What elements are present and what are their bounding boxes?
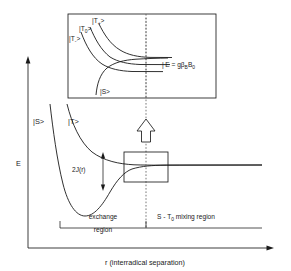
exchange-arrow-head-down [101,184,105,191]
triplet-curve-label: |T> [68,117,79,126]
svg-text:S - T0 mixing region: S - T0 mixing region [157,213,215,222]
potential-curves-group [50,104,262,216]
singlet-curve-label: |S> [33,117,44,126]
inset-label-singlet: |S> [100,88,110,96]
singlet-potential-curve [50,104,262,216]
triplet-potential-curve [67,104,262,165]
inset-zeeman-equation: |E = gβBB0 [162,61,195,70]
inset-t-minus-curve [81,32,163,72]
mixing-region-prefix: S - T [157,213,171,220]
inset-label-t-minus: |T-> [69,35,80,44]
figure-container: E r (interradical separation) |S> |T> 2J… [0,0,291,271]
y-axis-label: E [16,159,21,168]
y-axis-arrowhead [26,56,31,64]
inset-t-plus-curve [99,24,172,58]
x-axis-arrowhead [267,246,275,251]
energy-level-diagram: E r (interradical separation) |S> |T> 2J… [0,0,291,271]
axes-group [26,56,274,250]
exchange-arrow-head-up [101,152,105,159]
x-axis-label: r (interradical separation) [105,258,185,267]
zoom-callout-box [124,152,168,182]
zoom-callout-arrow-icon [137,119,155,142]
inset-label-t-plus: |T+> [92,17,105,26]
region-brackets-group [60,221,262,228]
mixing-region-suffix: mixing region [174,213,215,221]
inset-t-zero-curve [90,27,170,65]
exchange-region-label-line1: exchange [89,213,118,221]
exchange-splitting-arrow [101,152,105,191]
mixing-region-label: S - T0 mixing region [157,213,215,222]
exchange-region-label-line2: region [94,226,113,234]
exchange-splitting-label: 2J(r) [72,166,86,174]
